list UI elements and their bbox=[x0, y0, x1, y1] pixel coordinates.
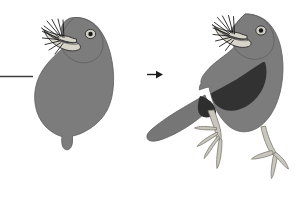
figure-root: Bird reconstruction diagram Two-panel il… bbox=[0, 0, 300, 201]
right-bird-pupil bbox=[259, 28, 263, 32]
left-bird-pupil bbox=[88, 32, 92, 36]
figure-canvas: transforms into bbox=[0, 0, 300, 201]
